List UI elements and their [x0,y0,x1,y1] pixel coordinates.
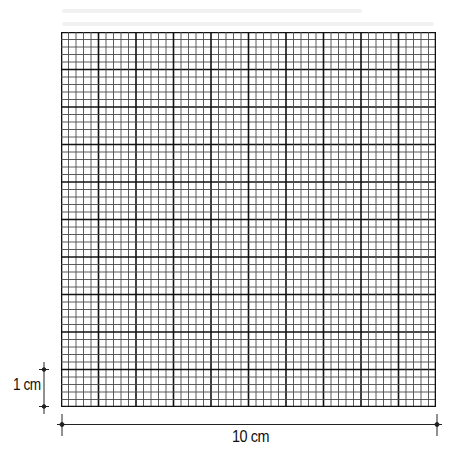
horizontal-scale-label: 10 cm [232,427,269,447]
vertical-scale-label: 1 cm [13,376,41,394]
dimension-markers [0,0,467,468]
